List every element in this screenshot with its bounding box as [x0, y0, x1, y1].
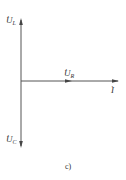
phasor-dot-icon: · [65, 66, 68, 74]
uc-arrowhead-icon [19, 141, 23, 148]
label-i: ·I [111, 86, 114, 95]
phasor-diagram [0, 0, 126, 180]
label-uc: ·UC [6, 135, 17, 145]
phasor-dot-icon: · [111, 83, 114, 91]
ur-arrowhead-icon [65, 79, 72, 83]
label-ur: ·UR [64, 69, 74, 79]
label-ul: ·UL [6, 16, 16, 26]
phasor-dot-icon: · [7, 13, 10, 21]
figure-caption: c) [65, 162, 71, 171]
phasor-dot-icon: · [7, 132, 10, 140]
ul-arrowhead-icon [19, 18, 23, 25]
